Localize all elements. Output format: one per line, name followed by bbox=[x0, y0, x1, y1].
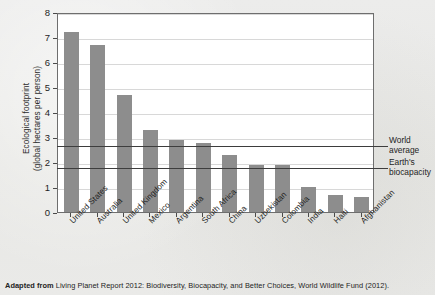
caption-prefix: Adapted from bbox=[5, 281, 54, 290]
y-axis-title-line1: Ecological footprint bbox=[22, 83, 31, 154]
y-axis-tick-label: 3 bbox=[30, 133, 50, 143]
y-axis-tick-label: 6 bbox=[30, 58, 50, 68]
bar bbox=[249, 165, 264, 213]
reference-line-label-line1: World bbox=[389, 135, 435, 145]
y-axis-tick-label: 2 bbox=[30, 158, 50, 168]
y-axis-tick-label: 8 bbox=[30, 8, 50, 18]
reference-line-label-line2: biocapacity bbox=[389, 167, 435, 177]
reference-line-label-line2: average bbox=[389, 145, 435, 155]
ecological-footprint-bar-chart: Ecological footprint (global hectares pe… bbox=[0, 0, 435, 295]
y-axis-tick-label: 1 bbox=[30, 183, 50, 193]
bars-group bbox=[58, 14, 373, 212]
bar bbox=[169, 140, 184, 213]
y-axis-tick-label: 7 bbox=[30, 33, 50, 43]
y-axis-tick-label: 5 bbox=[30, 83, 50, 93]
figure-caption: Adapted from Living Planet Report 2012: … bbox=[5, 281, 389, 290]
reference-line-label: Worldaverage bbox=[389, 135, 435, 155]
y-axis-tick-label: 4 bbox=[30, 108, 50, 118]
caption-source: Living Planet Report 2012: Biodiversity,… bbox=[56, 281, 389, 290]
bar bbox=[64, 32, 79, 212]
plot-area bbox=[57, 13, 374, 213]
reference-line-label: Earth'sbiocapacity bbox=[389, 157, 435, 177]
y-axis-tick-label: 0 bbox=[30, 208, 50, 218]
y-axis-tick bbox=[53, 213, 57, 214]
bar bbox=[117, 95, 132, 213]
reference-line-label-line1: Earth's bbox=[389, 157, 435, 167]
reference-line bbox=[57, 168, 388, 169]
reference-line bbox=[57, 146, 388, 147]
